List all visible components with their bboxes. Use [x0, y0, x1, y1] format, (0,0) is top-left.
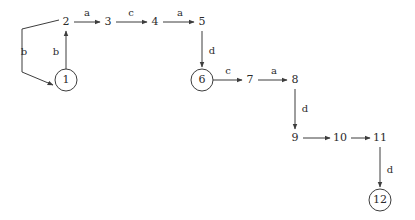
node-4[interactable]: 4 [152, 15, 159, 28]
node-8[interactable]: 8 [292, 73, 299, 86]
edge-5-to-6: d [202, 31, 216, 67]
node-1[interactable]: 1 [55, 69, 77, 91]
node-4-label: 4 [152, 15, 159, 28]
edge-8-to-9: d [295, 89, 309, 129]
node-7[interactable]: 7 [247, 73, 254, 86]
edge-11-to-12-label: d [387, 164, 394, 175]
edge-1-to-2-label: b [53, 46, 59, 57]
node-10[interactable]: 10 [333, 131, 347, 144]
edge-11-to-12: d [380, 147, 394, 187]
node-6[interactable]: 6 [191, 69, 213, 91]
edge-4-to-5-label: a [177, 7, 183, 18]
node-12[interactable]: 12 [369, 189, 391, 211]
edge-2-to-1-label: b [21, 46, 27, 57]
node-2-label: 2 [63, 15, 70, 28]
edge-7-to-8-label: a [271, 65, 277, 76]
edge-6-to-7: c [213, 65, 242, 81]
node-3[interactable]: 3 [105, 15, 112, 28]
node-12-label: 12 [373, 193, 387, 206]
node-9[interactable]: 9 [292, 131, 299, 144]
node-7-label: 7 [247, 73, 254, 86]
node-6-label: 6 [199, 73, 206, 86]
node-3-label: 3 [105, 15, 112, 28]
node-11[interactable]: 11 [373, 131, 387, 144]
edge-2-to-3-label: a [84, 7, 90, 18]
edge-6-to-7-label: c [225, 65, 231, 76]
state-diagram: b b a c a d c [0, 0, 415, 220]
edge-3-to-4-label: c [128, 7, 134, 18]
node-1-label: 1 [63, 73, 70, 86]
edge-8-to-9-label: d [302, 103, 309, 114]
edge-1-to-2: b [53, 31, 66, 69]
edge-2-to-3: a [74, 7, 100, 23]
node-10-label: 10 [333, 131, 347, 144]
node-11-label: 11 [373, 131, 387, 144]
node-5[interactable]: 5 [199, 15, 206, 28]
edge-4-to-5: a [163, 7, 194, 23]
edge-3-to-4: c [116, 7, 147, 23]
edge-7-to-8: a [258, 65, 287, 81]
edge-5-to-6-label: d [209, 45, 216, 56]
state-diagram-canvas: b b a c a d c [0, 0, 415, 220]
node-9-label: 9 [292, 131, 299, 144]
node-5-label: 5 [199, 15, 206, 28]
node-8-label: 8 [292, 73, 299, 86]
node-2[interactable]: 2 [63, 15, 70, 28]
